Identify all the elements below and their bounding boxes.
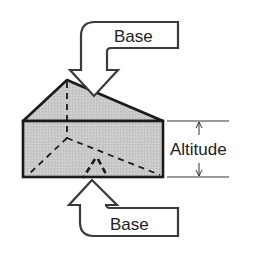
altitude-label: Altitude — [170, 140, 227, 159]
top-base-label: Base — [114, 27, 153, 46]
bottom-base-label: Base — [110, 215, 149, 234]
prism-diagram: Base Base Altitude — [0, 0, 272, 261]
